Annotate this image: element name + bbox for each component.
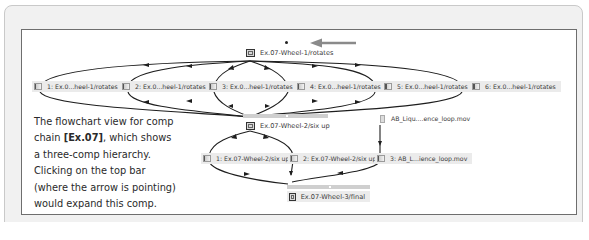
expand-bar-bottom-comp[interactable] — [287, 185, 370, 189]
caption-line: Clicking on the top bar — [34, 163, 184, 179]
layer-node-1[interactable]: 1: Ex.0...heel-1/rotates — [32, 81, 123, 92]
layer-node-6[interactable]: 6: Ex.0...heel-1/rotates — [470, 81, 561, 92]
layer-node-row2-2[interactable]: 2: Ex.07-Wheel-2/six up — [288, 153, 381, 164]
layer-icon — [209, 83, 217, 90]
layer-node-4[interactable]: 4: Ex.0...heel-1/rotates — [295, 81, 386, 92]
middle-comp-node[interactable]: Ex.07-Wheel-2/six up — [244, 120, 335, 131]
expand-bar-middle-comp[interactable] — [243, 114, 328, 118]
node-label: 5: Ex.0...heel-1/rotates — [397, 83, 468, 90]
comp-icon — [246, 49, 255, 57]
node-label: 4: Ex.0...heel-1/rotates — [310, 83, 381, 90]
caption-line: a three-comp hierarchy. — [34, 147, 184, 163]
node-label: AB_Liqu....ence_loop.mov — [391, 115, 470, 122]
caption-text: , which shows — [103, 132, 171, 143]
node-label: 2: Ex.07-Wheel-2/six up — [303, 155, 376, 162]
layer-icon — [384, 83, 392, 90]
layer-node-3[interactable]: 3: Ex.0...heel-1/rotates — [207, 81, 298, 92]
caption-comp-name: [Ex.07] — [64, 132, 103, 143]
caption-text: chain — [34, 132, 64, 143]
node-label: 6: Ex.0...heel-1/rotates — [485, 83, 556, 90]
caption-line: The flowchart view for comp — [34, 114, 184, 130]
expand-dot[interactable] — [285, 41, 288, 44]
caption: The flowchart view for comp chain [Ex.07… — [34, 114, 184, 212]
footage-icon — [380, 115, 385, 123]
node-label: 3: AB_L...ience_loop.mov — [390, 155, 467, 162]
layer-node-row2-1[interactable]: 1: Ex.07-Wheel-2/six up — [201, 153, 294, 164]
node-label: 2: Ex.0...heel-1/rotates — [135, 83, 206, 90]
layer-node-2[interactable]: 2: Ex.0...heel-1/rotates — [120, 81, 211, 92]
caption-line: (where the arrow is pointing) — [34, 180, 184, 196]
node-label: 1: Ex.07-Wheel-2/six up — [216, 155, 289, 162]
node-label: Ex.07-Wheel-1/rotates — [260, 49, 333, 57]
footage-node[interactable]: AB_Liqu....ence_loop.mov — [378, 113, 475, 124]
node-label: 1: Ex.0...heel-1/rotates — [47, 83, 118, 90]
node-label: 3: Ex.0...heel-1/rotates — [222, 83, 293, 90]
layer-icon — [297, 83, 305, 90]
layer-node-row2-3[interactable]: 3: AB_L...ience_loop.mov — [375, 153, 472, 164]
comp-icon — [246, 122, 255, 130]
layer-icon — [203, 155, 211, 162]
comp-icon — [289, 193, 296, 201]
layer-icon — [290, 155, 298, 162]
layer-icon — [377, 155, 385, 162]
caption-line: chain [Ex.07], which shows — [34, 130, 184, 146]
top-comp-node[interactable]: Ex.07-Wheel-1/rotates — [244, 47, 338, 58]
node-label: Ex.07-Wheel-3/final — [301, 193, 365, 201]
layer-icon — [122, 83, 130, 90]
layer-node-5[interactable]: 5: Ex.0...heel-1/rotates — [382, 81, 473, 92]
bottom-comp-node[interactable]: Ex.07-Wheel-3/final — [287, 191, 370, 202]
layer-icon — [34, 83, 42, 90]
layer-icon — [472, 83, 480, 90]
caption-line: would expand this comp. — [34, 196, 184, 212]
node-label: Ex.07-Wheel-2/six up — [260, 122, 330, 130]
